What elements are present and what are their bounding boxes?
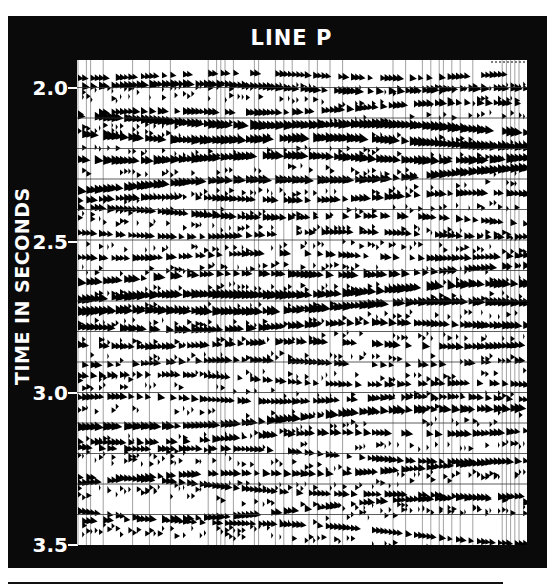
- figure-frame: LINE P TIME IN SECONDS 2.0 2.5 3.0 3.5: [8, 16, 547, 568]
- seismic-traces: [77, 60, 527, 545]
- y-tick-label-2-0: 2.0: [28, 76, 68, 100]
- figure-title: LINE P: [22, 26, 557, 50]
- y-tick-label-3-0: 3.0: [28, 381, 68, 405]
- bottom-rule: [8, 582, 503, 584]
- seismic-section-plot: [77, 60, 527, 545]
- y-tick-label-2-5: 2.5: [28, 230, 68, 254]
- y-tick-label-3-5: 3.5: [28, 533, 68, 557]
